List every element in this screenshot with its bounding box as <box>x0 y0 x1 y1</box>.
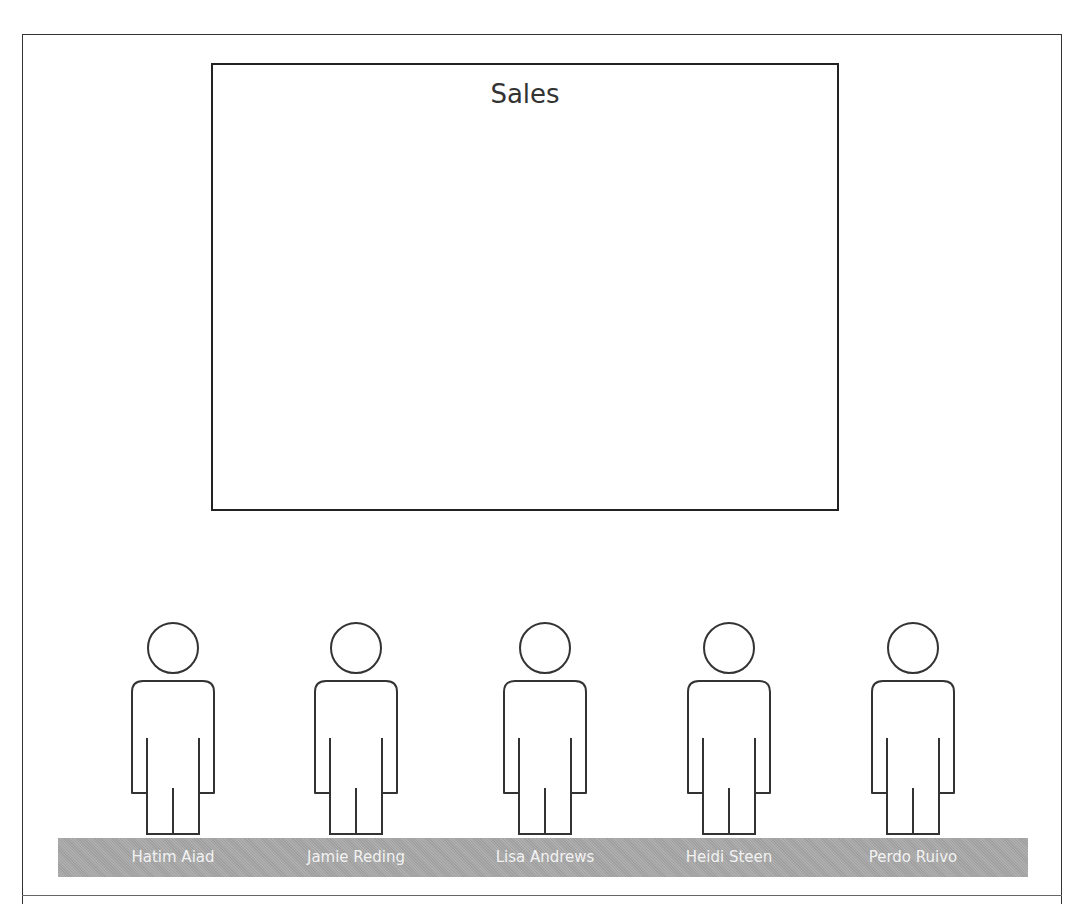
person-name-label: Perdo Ruivo <box>833 838 993 877</box>
sales-title: Sales <box>213 79 837 109</box>
person-name-label: Lisa Andrews <box>465 838 625 877</box>
person-outline-icon <box>301 618 411 838</box>
frame-bottom-border <box>22 895 1062 896</box>
person-name-label: Heidi Steen <box>649 838 809 877</box>
person-outline-icon <box>674 618 784 838</box>
names-bar: Hatim AiadJamie RedingLisa AndrewsHeidi … <box>58 838 1028 877</box>
person-outline-icon <box>118 618 228 838</box>
person-figure <box>118 618 228 838</box>
person-name-label: Jamie Reding <box>276 838 436 877</box>
person-outline-icon <box>490 618 600 838</box>
sales-box: Sales <box>211 63 839 511</box>
person-outline-icon <box>858 618 968 838</box>
person-figure <box>858 618 968 838</box>
person-figure <box>490 618 600 838</box>
person-figure <box>301 618 411 838</box>
person-name-label: Hatim Aiad <box>93 838 253 877</box>
person-figure <box>674 618 784 838</box>
